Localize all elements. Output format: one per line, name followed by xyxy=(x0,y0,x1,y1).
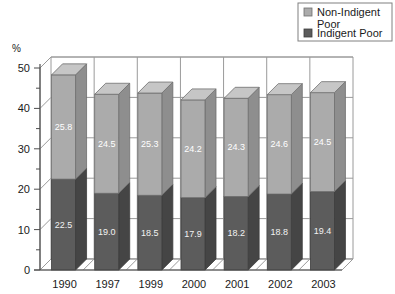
x-axis-tick-label: 1990 xyxy=(52,278,76,290)
bar-value-indigent: 19.0 xyxy=(98,227,116,237)
y-axis-tick-label: 0 xyxy=(24,264,30,276)
bar-value-indigent: 18.2 xyxy=(227,228,245,238)
x-axis-tick-label: 1997 xyxy=(95,278,119,290)
bar-chart: 19.424.5200318.824.6200218.224.3200117.9… xyxy=(0,0,395,294)
bar-segment-nonindigent-side xyxy=(248,87,259,196)
x-axis-tick-label: 2002 xyxy=(268,278,292,290)
legend-label-nonindigent-poor: Non-Indigent xyxy=(317,6,380,18)
bar-group xyxy=(95,83,130,270)
bar-value-indigent: 18.8 xyxy=(271,227,289,237)
bar-group xyxy=(181,89,216,270)
bar-segment-nonindigent-side xyxy=(334,82,345,192)
bar-segment-indigent-side xyxy=(334,181,345,270)
y-axis-tick-label: 40 xyxy=(18,102,30,114)
x-axis-tick-label: 1999 xyxy=(139,278,163,290)
bar-value-nonindigent: 25.3 xyxy=(141,139,159,149)
bar-value-nonindigent: 24.2 xyxy=(184,144,202,154)
chart-container: 19.424.5200318.824.6200218.224.3200117.9… xyxy=(0,0,395,294)
bar-value-indigent: 19.4 xyxy=(314,226,332,236)
x-axis-tick-label: 2003 xyxy=(311,278,335,290)
y-axis-tick-label: 50 xyxy=(18,62,30,74)
bar-group xyxy=(138,82,173,270)
bar-value-nonindigent: 25.8 xyxy=(55,122,73,132)
legend-layer: Non-IndigentPoorIndigent Poor xyxy=(298,3,392,41)
bar-value-nonindigent: 24.5 xyxy=(98,139,116,149)
bar-segment-indigent-side xyxy=(248,185,259,270)
bar-value-nonindigent: 24.5 xyxy=(314,137,332,147)
bar-group xyxy=(310,82,345,270)
bar-segment-indigent-side xyxy=(205,187,216,270)
y-axis-unit-label: % xyxy=(12,43,21,54)
bar-segment-nonindigent-side xyxy=(205,89,216,198)
bar-value-nonindigent: 24.6 xyxy=(271,139,289,149)
bar-segment-nonindigent-side xyxy=(119,83,130,193)
bar-value-nonindigent: 24.3 xyxy=(227,142,245,152)
bar-segment-nonindigent-side xyxy=(162,82,173,195)
bar-value-indigent: 22.5 xyxy=(55,220,73,230)
bar-segment-indigent-side xyxy=(119,182,130,270)
bar-group xyxy=(267,84,302,270)
bar-value-indigent: 18.5 xyxy=(141,228,159,238)
x-axis-tick-label: 2000 xyxy=(182,278,206,290)
bar-group xyxy=(52,64,87,270)
y-axis-tick-label: 10 xyxy=(18,224,30,236)
bar-segment-indigent-side xyxy=(76,168,87,270)
bar-segment-nonindigent-side xyxy=(291,84,302,194)
bars-layer xyxy=(52,64,346,270)
bar-group xyxy=(224,87,259,270)
y-axis-tick-label: 20 xyxy=(18,183,30,195)
x-axis-tick-label: 2001 xyxy=(225,278,249,290)
bar-segment-indigent-side xyxy=(291,183,302,270)
bar-value-indigent: 17.9 xyxy=(184,229,202,239)
y-axis-tick-label: 30 xyxy=(18,143,30,155)
legend-label-indigent-poor: Indigent Poor xyxy=(317,27,383,39)
bar-segment-indigent-side xyxy=(162,184,173,270)
legend-swatch-indigent-poor xyxy=(304,29,312,37)
bar-segment-nonindigent-side xyxy=(76,64,87,179)
legend-swatch-nonindigent-poor xyxy=(304,8,312,16)
